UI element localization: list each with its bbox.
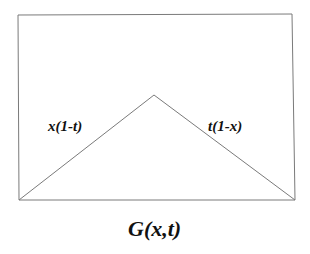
left-edge-label: x(1-t)	[48, 118, 82, 135]
outer-rectangle	[18, 14, 295, 200]
right-edge-label: t(1-x)	[208, 118, 242, 135]
triangle-peak	[19, 95, 295, 200]
figure-caption: G(x,t)	[128, 216, 181, 242]
